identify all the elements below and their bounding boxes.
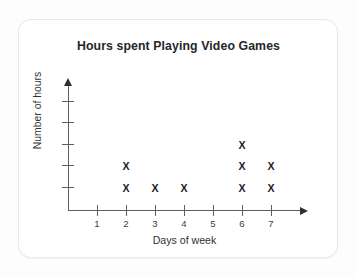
- x-axis-title: Days of week: [68, 234, 301, 246]
- y-axis-tick: [62, 144, 74, 145]
- data-marker: X: [264, 183, 278, 194]
- x-axis-tick-label: 6: [232, 218, 252, 229]
- y-axis-title: Number of hours: [32, 56, 43, 166]
- data-marker: X: [235, 183, 249, 194]
- y-axis-tick: [62, 122, 74, 123]
- x-axis-tick-label: 7: [261, 218, 281, 229]
- data-marker: X: [177, 183, 191, 194]
- screenshot-canvas: Hours spent Playing Video Games 1234567 …: [0, 0, 357, 278]
- x-axis-tick: [155, 205, 156, 216]
- data-marker: X: [119, 161, 133, 172]
- plot-area: 1234567 XXXXXXXXX Number of hours Days o…: [0, 0, 357, 278]
- x-axis-tick: [242, 205, 243, 216]
- x-axis-tick: [213, 205, 214, 216]
- y-axis-line: [68, 85, 69, 211]
- x-axis-tick-label: 4: [174, 218, 194, 229]
- data-marker: X: [148, 183, 162, 194]
- arrow-up-icon: [64, 78, 72, 86]
- x-axis-tick-label: 2: [116, 218, 136, 229]
- x-axis-tick-label: 5: [203, 218, 223, 229]
- y-axis-tick: [62, 101, 74, 102]
- data-marker: X: [235, 140, 249, 151]
- arrow-right-icon: [300, 207, 308, 215]
- y-axis-tick: [62, 165, 74, 166]
- x-axis-tick: [184, 205, 185, 216]
- x-axis-tick: [97, 205, 98, 216]
- x-axis-tick-label: 3: [145, 218, 165, 229]
- data-marker: X: [235, 161, 249, 172]
- data-marker: X: [264, 161, 278, 172]
- x-axis-tick-label: 1: [87, 218, 107, 229]
- x-axis-tick: [126, 205, 127, 216]
- data-marker: X: [119, 183, 133, 194]
- x-axis-tick: [271, 205, 272, 216]
- y-axis-tick: [62, 187, 74, 188]
